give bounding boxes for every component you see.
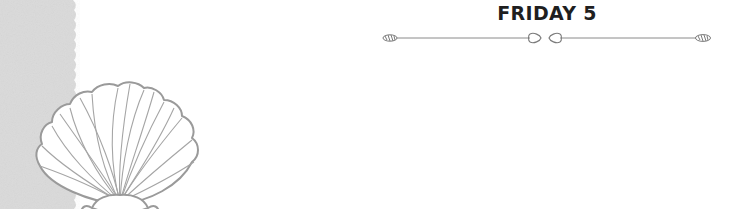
left-heart-icon (529, 33, 542, 42)
page-title: FRIDAY 5 (440, 2, 654, 24)
arrow-heart-divider (378, 30, 718, 48)
right-heart-icon (549, 33, 562, 42)
right-feather-icon (696, 35, 711, 42)
left-feather-icon (383, 35, 397, 41)
scallop-shell-illustration (30, 74, 202, 209)
